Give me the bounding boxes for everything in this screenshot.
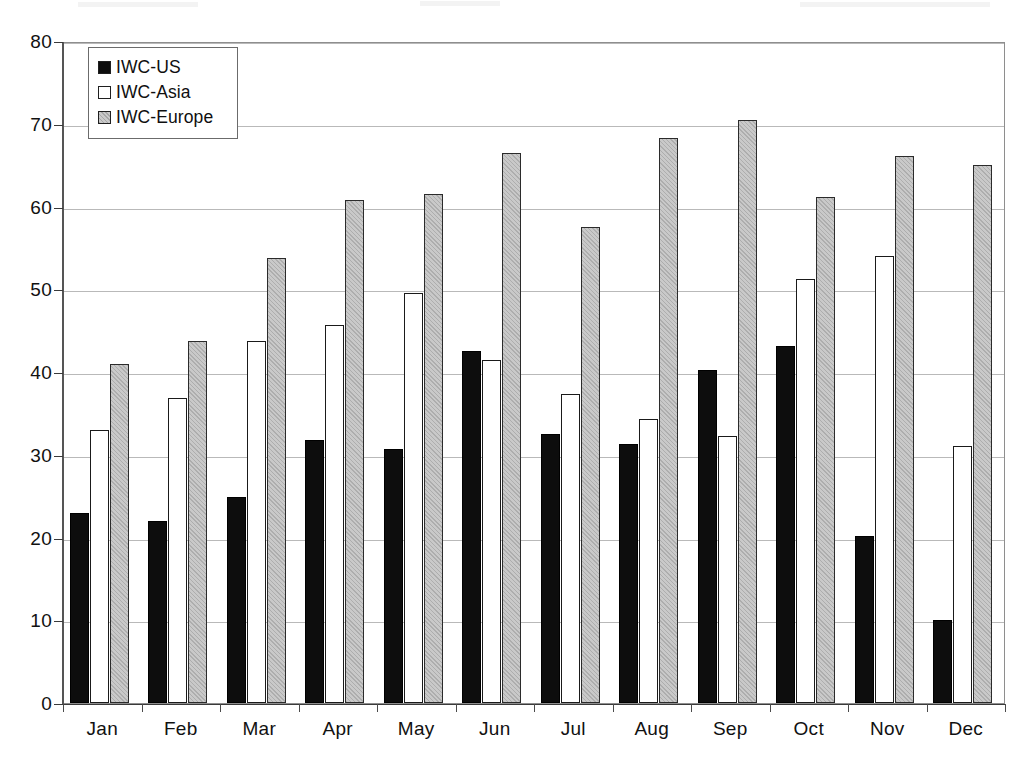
bar-feb-iwc-asia bbox=[168, 398, 187, 703]
x-axis-tick-label-may: May bbox=[371, 718, 461, 740]
bar-nov-iwc-europe bbox=[895, 156, 914, 703]
x-axis-tick-mark bbox=[456, 704, 457, 712]
x-axis-tick-label-dec: Dec bbox=[921, 718, 1011, 740]
bar-aug-iwc-europe bbox=[659, 138, 678, 703]
x-axis-tick-label-oct: Oct bbox=[764, 718, 854, 740]
x-axis-tick-label-jun: Jun bbox=[450, 718, 540, 740]
bar-nov-iwc-us bbox=[855, 536, 874, 703]
x-axis-tick-label-apr: Apr bbox=[293, 718, 383, 740]
legend-item-label: IWC-Europe bbox=[116, 107, 213, 128]
x-axis-tick-mark bbox=[927, 704, 928, 712]
x-axis-tick-mark bbox=[1005, 704, 1006, 712]
x-axis-tick-mark bbox=[613, 704, 614, 712]
y-axis-tick-label: 10 bbox=[0, 611, 52, 630]
bar-mar-iwc-asia bbox=[247, 341, 266, 703]
bar-jan-iwc-asia bbox=[90, 430, 109, 703]
y-axis-tick-label: 50 bbox=[0, 280, 52, 299]
bar-jul-iwc-us bbox=[541, 434, 560, 703]
plot-area bbox=[63, 42, 1005, 704]
bar-mar-iwc-europe bbox=[267, 258, 286, 703]
bar-apr-iwc-europe bbox=[345, 200, 364, 703]
gridline bbox=[64, 43, 1004, 44]
legend-item-iwc-asia: IWC-Asia bbox=[98, 80, 228, 105]
bar-apr-iwc-asia bbox=[325, 325, 344, 703]
white-square-icon bbox=[98, 86, 111, 99]
x-axis-tick-mark bbox=[534, 704, 535, 712]
y-axis-tick-mark bbox=[54, 539, 63, 540]
bar-jun-iwc-us bbox=[462, 351, 481, 703]
x-axis-tick-mark bbox=[770, 704, 771, 712]
bar-aug-iwc-asia bbox=[639, 419, 658, 703]
bar-oct-iwc-asia bbox=[796, 279, 815, 703]
y-axis-tick-label: 0 bbox=[0, 694, 52, 713]
y-axis-tick-mark bbox=[54, 42, 63, 43]
scan-artifact bbox=[800, 2, 990, 7]
y-axis-tick-label: 80 bbox=[0, 32, 52, 51]
x-axis-tick-label-jul: Jul bbox=[528, 718, 618, 740]
bar-jun-iwc-europe bbox=[502, 153, 521, 703]
bar-dec-iwc-us bbox=[933, 620, 952, 703]
y-axis-tick-label: 60 bbox=[0, 198, 52, 217]
y-axis-tick-mark bbox=[54, 125, 63, 126]
y-axis-tick-label: 30 bbox=[0, 446, 52, 465]
bar-sep-iwc-us bbox=[698, 370, 717, 703]
x-axis-tick-label-nov: Nov bbox=[842, 718, 932, 740]
bar-mar-iwc-us bbox=[227, 497, 246, 703]
gridline bbox=[64, 291, 1004, 292]
bar-oct-iwc-europe bbox=[816, 197, 835, 703]
x-axis-tick-mark bbox=[848, 704, 849, 712]
bar-feb-iwc-europe bbox=[188, 341, 207, 703]
bar-may-iwc-asia bbox=[404, 293, 423, 703]
x-axis-tick-mark bbox=[220, 704, 221, 712]
chart-legend: IWC-USIWC-AsiaIWC-Europe bbox=[88, 47, 238, 139]
y-axis-tick-mark bbox=[54, 704, 63, 705]
y-axis-tick-label: 70 bbox=[0, 115, 52, 134]
bar-dec-iwc-europe bbox=[973, 165, 992, 703]
bar-jul-iwc-asia bbox=[561, 394, 580, 703]
scan-artifact bbox=[420, 1, 500, 6]
bar-feb-iwc-us bbox=[148, 521, 167, 703]
gray-square-icon bbox=[98, 111, 111, 124]
bar-jan-iwc-us bbox=[70, 513, 89, 703]
bar-may-iwc-europe bbox=[424, 194, 443, 703]
x-axis-tick-mark bbox=[691, 704, 692, 712]
bar-nov-iwc-asia bbox=[875, 256, 894, 703]
x-axis-tick-label-aug: Aug bbox=[607, 718, 697, 740]
x-axis-tick-mark bbox=[299, 704, 300, 712]
x-axis-tick-label-mar: Mar bbox=[214, 718, 304, 740]
legend-item-iwc-europe: IWC-Europe bbox=[98, 105, 228, 130]
y-axis-tick-label: 20 bbox=[0, 529, 52, 548]
bar-sep-iwc-europe bbox=[738, 120, 757, 703]
figure-container: 01020304050607080 JanFebMarAprMayJunJulA… bbox=[0, 0, 1028, 765]
black-square-icon bbox=[98, 61, 111, 74]
legend-item-label: IWC-Asia bbox=[116, 82, 191, 103]
y-axis-tick-mark bbox=[54, 208, 63, 209]
x-axis-tick-label-jan: Jan bbox=[57, 718, 147, 740]
y-axis-tick-mark bbox=[54, 621, 63, 622]
bar-jan-iwc-europe bbox=[110, 364, 129, 703]
legend-item-label: IWC-US bbox=[116, 57, 181, 78]
scan-artifact bbox=[78, 2, 198, 7]
x-axis-tick-mark bbox=[63, 704, 64, 712]
y-axis-tick-mark bbox=[54, 456, 63, 457]
bar-sep-iwc-asia bbox=[718, 436, 737, 703]
bar-may-iwc-us bbox=[384, 449, 403, 703]
x-axis-tick-label-sep: Sep bbox=[685, 718, 775, 740]
bar-oct-iwc-us bbox=[776, 346, 795, 703]
gridline bbox=[64, 209, 1004, 210]
y-axis-tick-mark bbox=[54, 290, 63, 291]
y-axis-tick-label: 40 bbox=[0, 363, 52, 382]
x-axis-tick-mark bbox=[377, 704, 378, 712]
x-axis-tick-mark bbox=[142, 704, 143, 712]
x-axis-tick-label-feb: Feb bbox=[136, 718, 226, 740]
bar-dec-iwc-asia bbox=[953, 446, 972, 703]
legend-item-iwc-us: IWC-US bbox=[98, 55, 228, 80]
bar-aug-iwc-us bbox=[619, 444, 638, 703]
bar-jun-iwc-asia bbox=[482, 360, 501, 703]
bar-apr-iwc-us bbox=[305, 440, 324, 703]
y-axis-tick-mark bbox=[54, 373, 63, 374]
bar-jul-iwc-europe bbox=[581, 227, 600, 703]
